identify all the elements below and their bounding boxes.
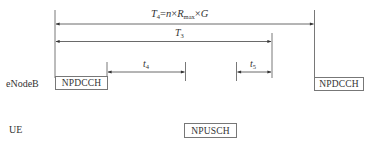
t4-formula-label: T4=n×Rmax×G (151, 9, 208, 21)
enodeb-label: eNodeB (6, 79, 39, 89)
t4-label: t4 (143, 59, 149, 71)
ue-label: UE (9, 125, 22, 135)
t3-subscript: 3 (181, 32, 184, 39)
npdcch-right-box: NPDCCH (314, 77, 364, 91)
t5-subscript: 5 (253, 63, 256, 70)
npusch-box: NPUSCH (184, 123, 237, 138)
t5-label: t5 (250, 59, 256, 71)
t3-label: T3 (175, 28, 184, 40)
npdcch-left-box: NPDCCH (55, 76, 108, 90)
t4-small-subscript: 4 (146, 63, 149, 70)
r-subscript: max (184, 13, 195, 20)
g-variable: G (201, 8, 209, 19)
